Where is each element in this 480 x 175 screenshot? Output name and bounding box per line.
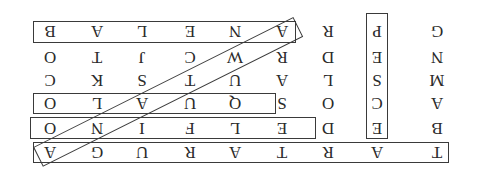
word-search-grid: BALENARPGOTJCWRDENCKSTUALSMOLAUQSOCAONIF… bbox=[0, 0, 480, 175]
grid-letter[interactable]: A bbox=[422, 92, 452, 114]
grid-letter[interactable]: R bbox=[313, 20, 343, 42]
grid-letter[interactable]: B bbox=[422, 117, 452, 139]
grid-letter[interactable]: G bbox=[422, 20, 452, 42]
grid-letter[interactable]: L bbox=[313, 69, 343, 91]
grid-letter[interactable]: K bbox=[82, 69, 112, 91]
grid-letter[interactable]: D bbox=[313, 117, 343, 139]
found-word-box-tartaruga bbox=[33, 142, 449, 163]
grid-letter[interactable]: D bbox=[313, 46, 343, 68]
grid-letter[interactable]: A bbox=[267, 69, 297, 91]
grid-letter[interactable]: O bbox=[313, 92, 343, 114]
grid-letter[interactable]: N bbox=[422, 46, 452, 68]
found-word-box-pesce bbox=[366, 13, 388, 139]
grid-letter[interactable]: C bbox=[35, 69, 65, 91]
grid-letter[interactable]: J bbox=[127, 46, 157, 68]
grid-letter[interactable]: O bbox=[35, 46, 65, 68]
grid-letter[interactable]: M bbox=[422, 69, 452, 91]
grid-letter[interactable]: T bbox=[82, 46, 112, 68]
